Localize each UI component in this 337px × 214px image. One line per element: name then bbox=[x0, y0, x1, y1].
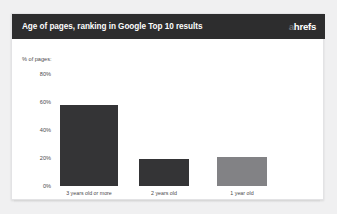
x-axis-label-3: 1 year old bbox=[167, 190, 317, 196]
chart-card: Age of pages, ranking in Google Top 10 r… bbox=[11, 13, 324, 200]
ahrefs-logo: ahrefs bbox=[289, 22, 316, 32]
logo-wordmark: hrefs bbox=[294, 21, 316, 32]
bar-2 bbox=[139, 159, 189, 186]
page-title: Age of pages, ranking in Google Top 10 r… bbox=[22, 22, 202, 31]
card-header: Age of pages, ranking in Google Top 10 r… bbox=[12, 14, 325, 39]
y-axis-tick-40%: 40% bbox=[21, 127, 51, 133]
y-axis-tick-20%: 20% bbox=[21, 155, 51, 161]
chart-plot-area: % of pages: 0%20%40%60%80% 3 years old o… bbox=[12, 39, 325, 200]
y-axis-caption: % of pages: bbox=[22, 56, 52, 62]
y-axis-tick-0%: 0% bbox=[21, 183, 51, 189]
bar-3 bbox=[217, 157, 267, 186]
card-shadow bbox=[14, 200, 320, 203]
bar-column-1: 3 years old or more bbox=[60, 105, 118, 186]
bar-1 bbox=[60, 105, 118, 186]
y-axis-tick-60%: 60% bbox=[21, 99, 51, 105]
bar-column-3: 1 year old bbox=[217, 157, 267, 186]
y-axis-tick-80%: 80% bbox=[21, 71, 51, 77]
bar-column-2: 2 years old bbox=[139, 159, 189, 186]
